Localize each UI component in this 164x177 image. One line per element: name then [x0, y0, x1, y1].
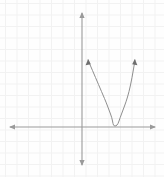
coordinate-plane-svg	[0, 0, 164, 177]
graph-figure	[0, 0, 164, 177]
